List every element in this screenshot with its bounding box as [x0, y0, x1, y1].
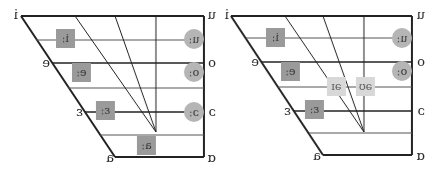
label-front-open: a	[313, 149, 321, 162]
vowel-box-epsilon-long: ɛː	[305, 100, 324, 119]
label-back-openmid: ɔ	[418, 104, 425, 117]
trapezoid-grid	[0, 0, 218, 170]
vowel-circle-u-long: uː	[184, 29, 204, 49]
vowel-box-i-long: iː	[266, 28, 285, 47]
vowel-circle-o-long: oː	[392, 61, 412, 81]
diphthong-box-schwa-u: əʊ	[356, 77, 375, 96]
label-back-closemid: o	[208, 56, 216, 69]
mirrored-figure: i e ɛ a u o ɔ ɑ iː eː ɛː aː uː oː ɔː	[0, 0, 218, 170]
label-front-close: i	[14, 8, 18, 21]
vowel-circle-open-o-long: ɔː	[184, 102, 204, 122]
label-back-open: ɑ	[417, 149, 425, 162]
vowel-circle-o-long: oː	[184, 62, 204, 82]
label-front-openmid: ɛ	[284, 104, 291, 117]
vowel-chart-right: i e ɛ a u o ɔ ɑ iː eː ɛː uː oː əɪ əʊ	[219, 0, 437, 170]
label-back-open: ɑ	[208, 151, 216, 164]
vowel-box-a-long: aː	[137, 136, 156, 155]
vowel-box-e-long: eː	[281, 62, 300, 81]
diphthong-box-schwa-i: əɪ	[327, 77, 346, 96]
label-back-openmid: ɔ	[209, 105, 216, 118]
label-back-closemid: o	[417, 55, 425, 68]
vowel-box-i-long: iː	[56, 29, 75, 48]
label-back-close: u	[417, 8, 425, 21]
label-back-close: u	[208, 8, 216, 21]
label-front-closemid: e	[42, 56, 50, 69]
label-front-openmid: ɛ	[76, 105, 83, 118]
vowel-chart-left: i e ɛ a u o ɔ ɑ iː eː ɛː aː uː oː ɔː	[0, 0, 218, 170]
vowel-circle-u-long: uː	[392, 28, 412, 48]
label-front-closemid: e	[251, 55, 259, 68]
mirrored-figure: i e ɛ a u o ɔ ɑ iː eː ɛː uː oː əɪ əʊ	[219, 0, 437, 170]
vowel-box-epsilon-long: ɛː	[96, 101, 115, 120]
label-front-close: i	[225, 8, 229, 21]
vowel-box-e-long: eː	[72, 63, 91, 82]
label-front-open: a	[106, 151, 114, 164]
